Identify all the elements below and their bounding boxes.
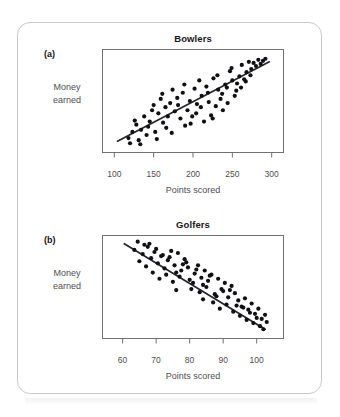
data-point (185, 108, 189, 112)
data-point (130, 130, 134, 134)
data-point (162, 266, 166, 270)
x-tick-label: 100 (107, 169, 121, 179)
data-point (233, 291, 237, 295)
data-point (191, 281, 195, 285)
data-point (150, 108, 154, 112)
data-point (196, 263, 200, 267)
data-point (202, 120, 206, 124)
data-point (179, 268, 183, 272)
data-point (128, 141, 132, 145)
data-point (197, 78, 201, 82)
data-point (229, 284, 233, 288)
data-point (206, 91, 210, 95)
data-point (256, 58, 260, 62)
data-point (170, 88, 174, 92)
data-point (240, 63, 244, 67)
panel-b-title: Golfers (102, 219, 284, 230)
data-point (226, 101, 230, 105)
panel-a-y-label-line2: earned (53, 95, 81, 105)
data-point (163, 105, 167, 109)
data-point (183, 124, 187, 128)
data-point (151, 270, 155, 274)
data-point (214, 104, 218, 108)
data-point (193, 272, 197, 276)
data-point (256, 307, 260, 311)
data-point (188, 278, 192, 282)
data-point (238, 314, 242, 318)
data-point (207, 100, 211, 104)
panel-a-y-label-line1: Money (53, 82, 80, 92)
x-tick-label: 60 (118, 355, 127, 365)
data-point (199, 276, 203, 280)
data-point (201, 297, 205, 301)
x-tick-label: 70 (151, 355, 160, 365)
data-point (144, 264, 148, 268)
data-point (175, 96, 179, 100)
data-point (199, 105, 203, 109)
panel-b-letter: (b) (44, 235, 56, 245)
data-point (215, 73, 219, 77)
data-point (200, 94, 204, 98)
data-point (144, 133, 148, 137)
data-point (170, 131, 174, 135)
data-point (164, 126, 168, 130)
data-point (224, 302, 228, 306)
data-point (263, 57, 267, 61)
data-point (192, 87, 196, 91)
data-point (182, 82, 186, 86)
data-point (258, 324, 262, 328)
data-point (254, 64, 258, 68)
x-tick-label: 250 (225, 169, 239, 179)
x-tick-label: 90 (218, 355, 227, 365)
data-point (236, 298, 240, 302)
panel-a-x-tick-labels: 100150200250300 (102, 169, 284, 181)
data-point (154, 247, 158, 251)
data-point (233, 94, 237, 98)
data-point (147, 242, 151, 246)
data-point (136, 240, 140, 244)
data-point (176, 103, 180, 107)
data-point (181, 91, 185, 95)
data-point (139, 128, 143, 132)
data-point (149, 256, 153, 260)
data-point (177, 275, 181, 279)
panel-bowlers: Bowlers (a) Money earned 100150200250300… (18, 33, 323, 209)
data-point (249, 67, 253, 71)
data-point (218, 307, 222, 311)
panel-b-x-axis-label: Points scored (102, 371, 284, 381)
panel-b-y-label-line1: Money (53, 268, 80, 278)
x-tick-label: 100 (250, 355, 264, 365)
data-point (178, 116, 182, 120)
data-point (137, 138, 141, 142)
data-point (186, 265, 190, 269)
data-point (148, 120, 152, 124)
data-point (225, 86, 229, 90)
data-point (159, 97, 163, 101)
data-point (168, 101, 172, 105)
data-point (251, 321, 255, 325)
data-point (220, 92, 224, 96)
x-tick-label: 300 (265, 169, 279, 179)
data-point (132, 248, 136, 252)
data-point (153, 130, 157, 134)
data-point (166, 114, 170, 118)
data-point (134, 123, 138, 127)
data-point (248, 311, 252, 315)
panel-b-plot-area (102, 235, 284, 352)
data-point (201, 283, 205, 287)
data-point (161, 121, 165, 125)
data-point (226, 295, 230, 299)
data-point (160, 92, 164, 96)
data-point (234, 89, 238, 93)
data-point (241, 306, 245, 310)
data-point (190, 114, 194, 118)
data-point (142, 243, 146, 247)
data-point (216, 88, 220, 92)
panel-golfers: Golfers (b) Money earned 60708090100 Poi… (18, 219, 323, 395)
data-point (208, 274, 212, 278)
data-point (206, 279, 210, 283)
data-point (247, 60, 251, 64)
data-point (137, 259, 141, 263)
data-point (243, 296, 247, 300)
data-point (194, 111, 198, 115)
